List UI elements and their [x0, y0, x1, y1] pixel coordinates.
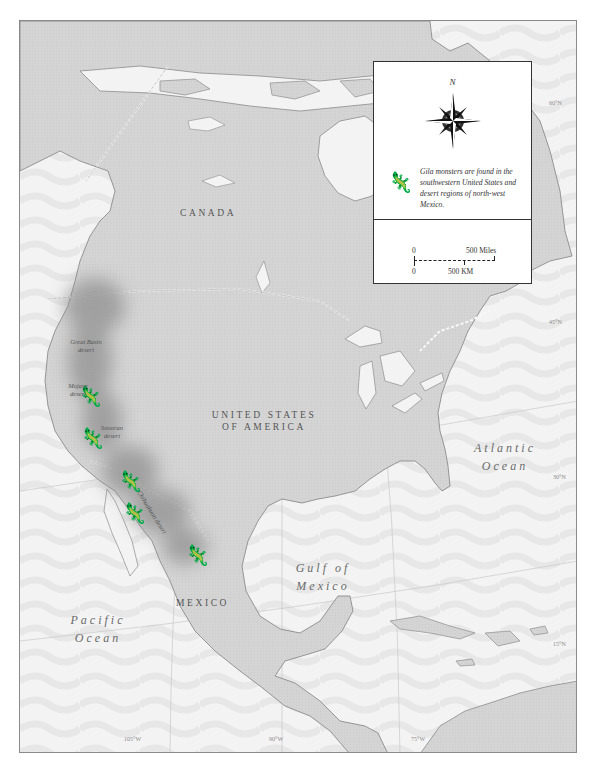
desert-label-mojave: Mojavedesert [58, 382, 98, 398]
scale-km-start: 0 [412, 267, 416, 276]
country-label-mexico: MEXICO [176, 597, 229, 609]
lat-label-15n: 15°N [553, 641, 566, 647]
scale-km-end: 500 KM [448, 267, 473, 276]
desert-label-sonoran: Sonorandesert [90, 424, 134, 440]
water-label-pacific: PacificOcean [63, 611, 133, 647]
gila-monster-icon: 🦎 [388, 170, 413, 194]
country-label-canada: CANADA [180, 207, 236, 219]
water-label-gulf: Gulf ofMexico [288, 559, 358, 595]
desert-label-great-basin: Great Basindesert [56, 338, 116, 354]
lat-label-60n: 60°N [549, 100, 562, 106]
legend-divider [374, 219, 531, 220]
lat-label-30n: 30°N [553, 474, 566, 480]
lat-label-45n: 45°N [549, 319, 562, 325]
map-legend: N 🦎 Gila monsters are found in [373, 61, 532, 284]
scale-miles-start: 0 [412, 246, 416, 255]
lon-label-105w: 105°W [124, 736, 141, 742]
country-label-usa: UNITED STATESOF AMERICA [204, 409, 324, 433]
scale-miles-end: 500 Miles [466, 246, 496, 255]
lon-label-90w: 90°W [269, 736, 283, 742]
map-frame: 🦎 🦎 🦎 🦎 🦎 Great Basindesert Mojavedesert… [19, 20, 577, 753]
north-label: N [374, 77, 531, 87]
compass-rose-icon [424, 92, 482, 150]
scale-bar [414, 257, 495, 265]
lon-label-75w: 75°W [411, 736, 425, 742]
range-note: Gila monsters are found in the southwest… [420, 166, 528, 210]
gila-monster-marker-chihuahuan: 🦎 [185, 543, 210, 567]
water-label-atlantic: AtlanticOcean [465, 439, 545, 475]
